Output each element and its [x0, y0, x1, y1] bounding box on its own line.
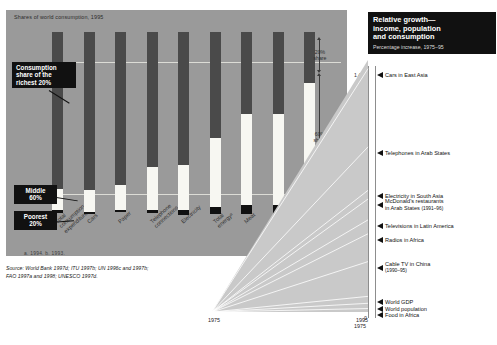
endpoint-label-note: (1990–95) [385, 268, 407, 273]
left-chart-title: Shares of world consumption, 1995 [14, 14, 103, 20]
growth-line [212, 309, 368, 312]
segment-middle [210, 138, 221, 207]
source-note: Source: World Bank 1997d; ITU 1997b; UN … [6, 264, 148, 280]
endpoint-label: McDonald's restaurantsin Arab States (19… [385, 198, 444, 212]
endpoint-label-line1: Televisions in Latin America [385, 223, 454, 230]
endpoint-marker [377, 150, 383, 156]
callout-richest-line1: Consumption [16, 64, 72, 71]
callout-poorest-line1: Poorest [18, 213, 53, 220]
endpoint-label-line1: Food in Africa [385, 311, 419, 318]
endpoint-label: Telephones in Arab States [385, 150, 450, 157]
y-tick-label: 200 [358, 280, 367, 286]
share-axis: 20%share60%share20%share [307, 18, 341, 216]
callout-middle: Middle 60% [14, 185, 57, 204]
right-subtitle: Percentage increase, 1975–95 [373, 44, 491, 50]
consumption-shares-chart: Shares of world consumption, 1995 Totalc… [6, 10, 347, 256]
callout-middle-line2: 60% [18, 194, 53, 201]
endpoint-marker [377, 223, 383, 229]
y-tick-label: 800 [358, 176, 367, 182]
endpoint-label-line1: Cars in East Asia [385, 71, 428, 78]
callout-poorest: Poorest 20% [14, 211, 57, 230]
y-axis-line-left [368, 66, 369, 318]
share-axis-label: 60%share [307, 131, 333, 143]
endpoint-label: World GDP [385, 299, 413, 306]
share-axis-label: 20%share [307, 49, 333, 61]
share-axis-label-word: share [307, 137, 333, 143]
endpoint-label-line2: in Arab States (1991–96) [385, 205, 444, 213]
segment-richest [84, 32, 95, 190]
endpoint-label-line1: Radios in Africa [385, 236, 424, 243]
endpoint-marker [377, 299, 383, 305]
segment-richest [178, 32, 189, 165]
segment-richest [210, 32, 221, 138]
segment-richest [241, 32, 252, 114]
relative-growth-chart: Relative growth— income, population and … [348, 6, 497, 345]
endpoint-marker [377, 193, 383, 199]
callout-richest-line3: richest 20% [16, 79, 72, 86]
segment-middle [84, 190, 95, 212]
growth-line [212, 296, 368, 312]
segment-middle [115, 185, 126, 210]
endpoint-label: Radios in Africa [385, 236, 424, 243]
share-axis-label-word: share [307, 55, 333, 61]
segment-richest [147, 32, 158, 167]
endpoint-label-line2: (1990–95) [385, 267, 430, 275]
endpoint-label-line1: World GDP [385, 299, 413, 306]
callout-poorest-line2: 20% [18, 220, 53, 227]
endpoint-label-note: (1991–96) [421, 206, 443, 211]
x-axis-label-start: 1975 [354, 323, 366, 329]
segment-middle [273, 114, 284, 205]
growth-line [212, 303, 368, 312]
share-axis-label-word: share [307, 214, 333, 220]
segment-richest [52, 32, 63, 189]
endpoint-label: Televisions in Latin America [385, 223, 454, 230]
share-axis-label: 20%share [307, 208, 333, 220]
endpoint-marker [377, 237, 383, 243]
endpoint-label: Cable TV in China(1990–95) [385, 261, 430, 275]
segment-richest [115, 32, 126, 185]
growth-line [212, 262, 368, 312]
y-axis-line-right [375, 66, 376, 318]
endpoint-label-line1: Telephones in Arab States [385, 150, 450, 157]
footnote: a. 1994. b. 1993. [24, 251, 65, 256]
share-arrow-down [317, 222, 321, 225]
x-axis-label-start-main: 1975 [208, 317, 220, 323]
segment-richest [273, 32, 284, 114]
right-chart-title-box: Relative growth— income, population and … [368, 12, 496, 54]
source-line-2: FAO 1997a and 1998; UNESCO 1997d. [6, 272, 148, 280]
callout-richest-line2: share of the [16, 71, 72, 78]
bar-fish [273, 32, 284, 214]
bar-electricity [178, 32, 189, 214]
share-arrow-down [317, 198, 321, 201]
growth-plot: 02004006008001,0001,2001,400Cars in East… [368, 66, 376, 318]
right-title-line3: and consumption [373, 33, 491, 42]
y-tick-label: 400 [358, 245, 367, 251]
x-axis-label-end: 1995 [356, 317, 368, 323]
source-line-1: Source: World Bank 1997d; ITU 1997b; UN … [6, 264, 148, 272]
segment-middle [178, 165, 189, 211]
callout-middle-line1: Middle [18, 187, 53, 194]
y-tick-label: 1,200 [354, 106, 367, 112]
bar-cars [84, 32, 95, 214]
endpoint-label: Food in Africa [385, 311, 419, 318]
y-tick-label: 1,400 [354, 72, 367, 78]
y-tick-label: 1,000 [354, 141, 367, 147]
endpoint-label-line1: McDonald's restaurants [385, 198, 444, 205]
endpoint-marker [377, 72, 383, 78]
endpoint-label: Cars in East Asia [385, 71, 428, 78]
y-tick-label: 600 [358, 211, 367, 217]
endpoint-marker [377, 202, 383, 208]
callout-richest: Consumption share of the richest 20% [12, 62, 76, 88]
bar-telephone-connections [147, 32, 158, 214]
segment-middle [241, 114, 252, 205]
endpoint-label-line1: Cable TV in China [385, 261, 430, 268]
endpoint-marker [377, 265, 383, 271]
bar-total-energy [210, 32, 221, 214]
segment-middle [147, 167, 158, 211]
bar-meat [241, 32, 252, 214]
bar-paper [115, 32, 126, 214]
endpoint-marker [377, 312, 383, 318]
